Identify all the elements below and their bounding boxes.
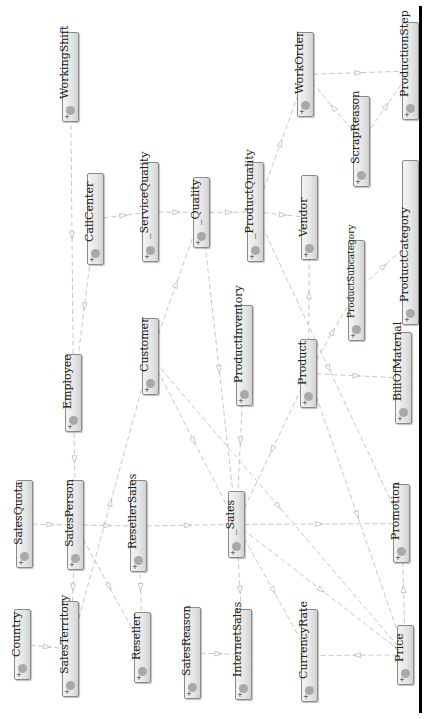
arrowhead-icon — [173, 210, 180, 215]
arrowhead-icon — [238, 437, 243, 444]
arrowhead-icon — [354, 653, 361, 658]
entity-node-product[interactable]: Product+ — [300, 339, 317, 408]
entity-node-productsubcategory[interactable]: ProductSubcategory+ — [348, 240, 365, 341]
entity-node-sales[interactable]: _Sales+ — [228, 491, 245, 558]
arrowhead-icon — [184, 523, 191, 528]
entity-node-productinventory[interactable]: ProductInventory+ — [236, 305, 253, 406]
entity-node-salesperson[interactable]: SalesPerson+ — [67, 480, 84, 570]
expand-icon[interactable]: + — [303, 694, 309, 701]
entity-label: BillOfMaterial — [392, 322, 404, 401]
arrowhead-icon — [83, 303, 88, 310]
entity-node-salesquota[interactable]: SalesQuota+ — [16, 480, 33, 568]
expand-icon[interactable]: + — [303, 252, 309, 259]
arrowhead-icon — [190, 437, 195, 445]
expand-icon[interactable]: + — [399, 677, 405, 684]
entity-node-country[interactable]: Country+ — [14, 609, 31, 680]
entity-label: ScrapReason — [350, 91, 362, 164]
entity-node-productcategory[interactable]: ProductCategory+ — [402, 160, 419, 325]
entity-label: _Sales — [225, 500, 237, 535]
expand-icon[interactable]: + — [230, 550, 236, 557]
expand-icon[interactable]: + — [136, 675, 142, 682]
arrowhead-icon — [325, 364, 330, 372]
entity-node-employee[interactable]: Employee+ — [65, 354, 82, 432]
entity-node-billofmaterial[interactable]: BillOfMaterial+ — [395, 332, 412, 424]
expand-icon[interactable]: + — [64, 114, 70, 121]
expand-icon[interactable]: + — [395, 555, 401, 562]
expand-icon[interactable]: + — [64, 689, 70, 696]
expand-icon[interactable]: + — [186, 691, 192, 698]
expand-icon[interactable]: + — [144, 387, 150, 394]
entity-label: Promotion — [390, 482, 402, 540]
expand-icon[interactable]: + — [16, 672, 22, 679]
entity-node-callcenter[interactable]: CallCenter+ — [87, 173, 104, 265]
expand-icon[interactable]: + — [18, 560, 24, 567]
entity-node-currencyrate[interactable]: CurrencyRate+ — [301, 609, 318, 702]
arrowhead-icon — [380, 264, 387, 271]
arrowhead-icon — [71, 584, 76, 591]
expand-icon[interactable]: + — [195, 240, 201, 247]
arrowhead-icon — [173, 281, 178, 289]
entity-label: Country — [11, 612, 23, 657]
entity-node-workingshift[interactable]: WorkingShift+ — [62, 32, 79, 122]
entity-label: _ProductQuality — [244, 149, 256, 239]
arrowhead-icon — [120, 214, 127, 219]
entity-label: SalesTerritory — [59, 595, 71, 674]
entity-node-salesreason[interactable]: SalesReason+ — [184, 607, 201, 699]
entity-label: WorkOrder — [294, 32, 306, 94]
arrowhead-icon — [317, 586, 324, 592]
arrowhead-icon — [316, 522, 323, 527]
expand-icon[interactable]: + — [69, 562, 75, 569]
expand-icon[interactable]: + — [132, 564, 138, 571]
entity-label: _Quality — [190, 179, 202, 225]
arrowhead-icon — [216, 365, 221, 372]
entity-node-price[interactable]: Price+ — [397, 625, 414, 685]
entity-node-productquality[interactable]: _ProductQuality+ — [247, 162, 264, 262]
entity-node-workorder[interactable]: WorkOrder+ — [297, 32, 314, 117]
expand-icon[interactable]: + — [144, 254, 150, 261]
expand-icon[interactable]: + — [299, 109, 305, 116]
entity-node-vendor[interactable]: Vendor+ — [301, 175, 318, 260]
expand-icon[interactable]: + — [355, 179, 361, 186]
entity-node-quality[interactable]: _Quality+ — [193, 177, 210, 248]
entity-label: ProductionStep — [399, 10, 411, 97]
entity-node-promotion[interactable]: Promotion+ — [393, 484, 410, 563]
entity-node-internetsales[interactable]: InternetSales+ — [235, 609, 252, 700]
entity-node-productionstep[interactable]: ProductionStep+ — [402, 22, 419, 120]
expand-icon[interactable]: + — [302, 400, 308, 407]
arrowhead-icon — [70, 232, 75, 239]
arrowhead-icon — [355, 70, 362, 75]
expand-icon[interactable]: + — [237, 692, 243, 699]
arrowhead-icon — [353, 373, 360, 378]
entity-label: _ServiceQuality — [139, 151, 151, 239]
entity-label: Product — [297, 341, 309, 385]
entity-node-customer[interactable]: Customer+ — [142, 318, 159, 395]
arrowhead-icon — [225, 210, 232, 215]
expand-icon[interactable]: + — [238, 398, 244, 405]
entity-label: ResellerSales — [127, 473, 139, 549]
entity-node-reseller[interactable]: Reseller+ — [134, 612, 151, 683]
entity-node-resellersales[interactable]: ResellerSales+ — [130, 480, 147, 572]
entity-label: Reseller — [131, 614, 143, 660]
arrowhead-icon — [47, 522, 54, 527]
arrowhead-icon — [277, 139, 282, 147]
expand-icon[interactable]: + — [67, 424, 73, 431]
arrowhead-icon — [279, 212, 286, 217]
expand-icon[interactable]: + — [397, 416, 403, 423]
entity-label: Customer — [139, 318, 151, 372]
arrowhead-icon — [237, 586, 242, 593]
entity-node-salesterritory[interactable]: SalesTerritory+ — [62, 601, 79, 697]
expand-icon[interactable]: + — [404, 317, 410, 324]
arrowhead-icon — [269, 586, 275, 593]
entity-node-servicequality[interactable]: _ServiceQuality+ — [142, 162, 159, 262]
expand-icon[interactable]: + — [404, 112, 410, 119]
arrowhead-icon — [138, 583, 143, 590]
expand-icon[interactable]: + — [89, 257, 95, 264]
arrowhead-icon — [271, 445, 276, 453]
arrowhead-icon — [331, 105, 337, 112]
expand-icon[interactable]: + — [249, 254, 255, 261]
entity-node-scrapreason[interactable]: ScrapReason+ — [353, 96, 370, 187]
entity-label: WorkingShift — [59, 26, 71, 99]
entity-label: ProductCategory — [399, 207, 411, 302]
arrowhead-icon — [215, 651, 222, 656]
expand-icon[interactable]: + — [350, 333, 356, 340]
